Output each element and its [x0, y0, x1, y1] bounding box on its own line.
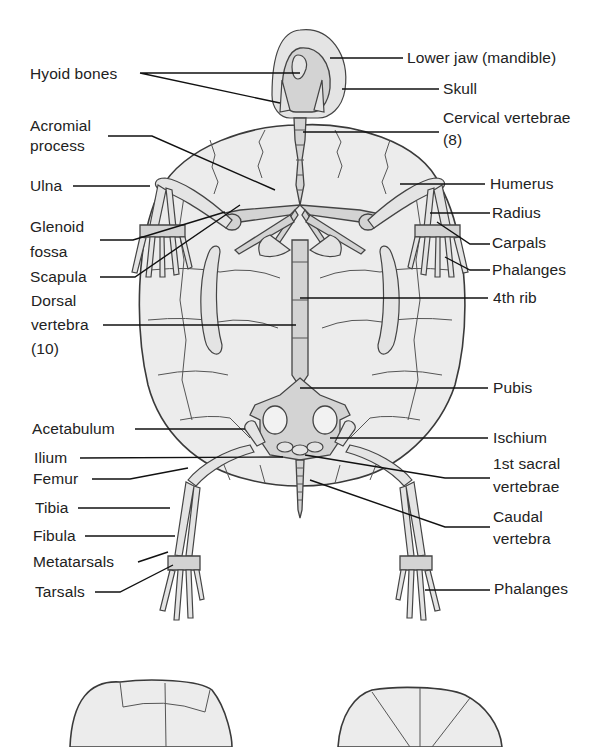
label-1st-sacral-2: vertebrae — [493, 478, 559, 496]
label-acromial-process-2: process — [30, 137, 85, 155]
label-ulna: Ulna — [30, 177, 62, 195]
label-lower-jaw: Lower jaw (mandible) — [407, 49, 556, 67]
label-tibia: Tibia — [35, 499, 69, 517]
caudal-vertebrae — [296, 460, 304, 518]
label-cervical-vertebrae-2: (8) — [443, 131, 462, 149]
label-acetabulum: Acetabulum — [32, 420, 115, 438]
label-glenoid-fossa-2: fossa — [30, 243, 68, 261]
label-humerus: Humerus — [490, 175, 554, 193]
label-caudal-vertebra-2: vertebra — [493, 530, 551, 548]
label-phalanges-hind: Phalanges — [494, 580, 568, 598]
label-dorsal-vertebra: Dorsal — [31, 292, 76, 310]
label-carpals: Carpals — [492, 234, 546, 252]
label-fibula: Fibula — [33, 527, 76, 545]
label-dorsal-vertebra-2: vertebra — [31, 316, 89, 334]
label-cervical-vertebrae: Cervical vertebrae — [443, 109, 571, 127]
label-radius: Radius — [492, 204, 541, 222]
label-femur: Femur — [33, 470, 78, 488]
label-metatarsals: Metatarsals — [33, 553, 114, 571]
label-ilium: Ilium — [34, 449, 67, 467]
label-1st-sacral: 1st sacral — [493, 455, 560, 473]
label-phalanges-fore: Phalanges — [492, 261, 566, 279]
label-scapula: Scapula — [30, 268, 87, 286]
label-acromial-process: Acromial — [30, 117, 91, 135]
label-hyoid-bones: Hyoid bones — [30, 65, 117, 83]
label-tarsals: Tarsals — [35, 583, 85, 601]
label-4th-rib: 4th rib — [493, 289, 537, 307]
plastron-view — [338, 687, 502, 747]
label-ischium: Ischium — [493, 429, 547, 447]
label-caudal-vertebra: Caudal — [493, 508, 543, 526]
skull — [272, 30, 346, 118]
carapace-top-view — [70, 680, 232, 747]
label-pubis: Pubis — [493, 379, 532, 397]
label-skull: Skull — [443, 80, 477, 98]
label-dorsal-vertebra-3: (10) — [31, 340, 59, 358]
label-glenoid-fossa: Glenoid — [30, 218, 84, 236]
